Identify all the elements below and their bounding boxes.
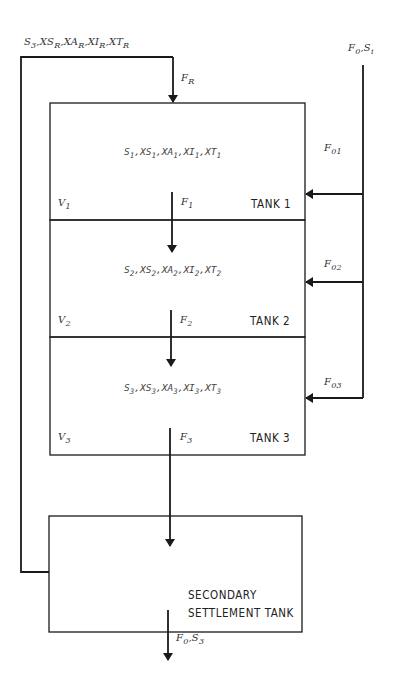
label-base: XI [183, 146, 194, 157]
label-base: XI [183, 264, 194, 275]
label-sub: 3 [130, 387, 135, 396]
label-sub: 3 [173, 387, 178, 396]
label-sub: R [78, 41, 84, 50]
label-sub: 1 [195, 151, 200, 160]
tank-1-volume: V1 [58, 197, 71, 211]
label-sub: 2 [187, 319, 192, 328]
influent-label: F0,Si [348, 42, 374, 56]
label-sub: 3 [65, 436, 70, 445]
label-base: XS [140, 382, 151, 393]
label-sub: 1 [65, 202, 70, 211]
tank-3-feed-label: F03 [324, 376, 342, 390]
label-base: S [364, 42, 371, 53]
tank-2-concentrations: S2,XS2,XA2,XI2,XT2 [124, 264, 221, 278]
recycle-flow-label: FR [181, 72, 194, 86]
label-sub: 1 [217, 151, 222, 160]
tank-1-feed-label: F01 [324, 142, 342, 156]
tank-3-concentrations: S3,XS3,XA3,XI3,XT3 [124, 382, 221, 396]
tank-3-outflow-label: F3 [180, 431, 192, 445]
label-base: XA [64, 36, 78, 47]
label-sub: 1 [151, 151, 156, 160]
label-sub: i [371, 47, 374, 56]
recycle-line [21, 57, 173, 572]
settler-name-line1: SECONDARY [188, 588, 257, 602]
label-sub: R [123, 41, 129, 50]
label-base: XS [140, 264, 151, 275]
label-sub: 3 [195, 387, 200, 396]
label-sub: R [188, 77, 194, 86]
label-sub: 3 [31, 41, 36, 50]
label-base: XI [183, 382, 194, 393]
label-sub: R [99, 41, 105, 50]
label-sub: 2 [195, 269, 200, 278]
tank-2-volume: V2 [58, 314, 71, 328]
tank-2-outflow-label: F2 [180, 314, 192, 328]
label-base: XI [88, 36, 99, 47]
label-sub: 3 [187, 436, 192, 445]
label-sub: 02 [331, 263, 342, 272]
label-sub: 2 [130, 269, 135, 278]
label-sub: 2 [173, 269, 178, 278]
tank-1-name: TANK 1 [251, 197, 291, 211]
label-sub: 2 [217, 269, 222, 278]
label-sub: 0 [355, 47, 360, 56]
label-base: XT [109, 36, 123, 47]
recycle-stream-label: S3,XSR,XAR,XIR,XTR [24, 36, 129, 50]
label-sub: 2 [65, 319, 70, 328]
label-sub: 3 [199, 637, 204, 646]
settler-name-line2: SETTLEMENT TANK [188, 606, 294, 620]
tank-2-name: TANK 2 [250, 314, 290, 328]
label-base: XT [205, 382, 216, 393]
label-sub: 3 [151, 387, 156, 396]
label-sub: 0 [183, 637, 188, 646]
tank-1-concentrations: S1,XS1,XA1,XI1,XT1 [124, 146, 221, 160]
label-sub: 01 [331, 147, 342, 156]
flow-diagram-lines [0, 0, 399, 681]
label-sub: 1 [130, 151, 135, 160]
tank-1-outflow-label: F1 [181, 196, 193, 210]
label-base: XS [140, 146, 151, 157]
effluent-label: F0,S3 [176, 632, 204, 646]
label-sub: 3 [217, 387, 222, 396]
label-base: XA [162, 264, 173, 275]
label-base: S [24, 36, 31, 47]
label-base: S [192, 632, 199, 643]
label-sub: 03 [331, 381, 342, 390]
label-sub: 2 [151, 269, 156, 278]
label-base: XS [40, 36, 54, 47]
label-sub: R [54, 41, 60, 50]
tank-3-volume: V3 [58, 431, 71, 445]
label-base: XT [205, 146, 216, 157]
label-base: XT [205, 264, 216, 275]
tank-3-name: TANK 3 [250, 431, 290, 445]
label-sub: 1 [188, 201, 193, 210]
label-base: XA [162, 146, 173, 157]
tank-2-feed-label: F02 [324, 258, 342, 272]
label-base: XA [162, 382, 173, 393]
label-sub: 1 [173, 151, 178, 160]
